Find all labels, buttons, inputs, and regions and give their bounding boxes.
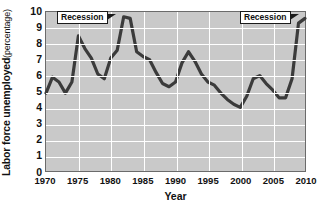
y-axis-tick-label: 7 — [16, 54, 42, 65]
gridline-horizontal — [46, 76, 305, 77]
y-axis-title: Labor force unemployed(percentage) — [0, 9, 14, 176]
data-series-line — [46, 12, 305, 171]
unemployment-line-chart: Labor force unemployed(percentage) 01234… — [0, 0, 318, 219]
gridline-vertical — [242, 12, 243, 171]
y-axis-tick-label: 4 — [16, 102, 42, 113]
plot-area — [45, 11, 306, 172]
gridline-horizontal — [46, 60, 305, 61]
gridline-horizontal — [46, 28, 305, 29]
gridline-vertical — [79, 12, 80, 171]
y-axis-tick-label: 10 — [16, 6, 42, 17]
y-axis-tick-labels: 012345678910 — [14, 0, 42, 180]
x-axis-tick-label: 2010 — [286, 175, 318, 187]
recession-annotation-1975: Recession — [57, 11, 116, 24]
x-axis-title: Year — [45, 190, 306, 202]
gridline-horizontal — [46, 93, 305, 94]
gridline-vertical — [144, 12, 145, 171]
y-axis-title-main: Labor force unemployed — [0, 58, 12, 176]
y-axis-tick-label: 9 — [16, 22, 42, 33]
pointer-flag-icon — [107, 14, 116, 20]
y-axis-tick-label: 1 — [16, 150, 42, 161]
gridline-horizontal — [46, 109, 305, 110]
gridline-vertical — [177, 12, 178, 171]
y-axis-tick-label: 5 — [16, 86, 42, 97]
gridline-horizontal — [46, 44, 305, 45]
pointer-flag-icon — [290, 14, 299, 20]
recession-annotation-2008: Recession — [240, 11, 299, 24]
gridline-vertical — [274, 12, 275, 171]
y-axis-tick-label: 3 — [16, 118, 42, 129]
y-axis-tick-label: 2 — [16, 134, 42, 145]
gridline-horizontal — [46, 125, 305, 126]
y-axis-title-units: (percentage) — [2, 9, 12, 58]
gridline-horizontal — [46, 157, 305, 158]
recession-annotation-2008-label: Recession — [240, 11, 291, 24]
y-axis-tick-label: 8 — [16, 38, 42, 49]
x-axis-tick-labels: 197019751980198519901995200020052010 — [45, 175, 306, 189]
gridline-vertical — [111, 12, 112, 171]
recession-annotation-1975-label: Recession — [57, 11, 108, 24]
y-axis-tick-label: 6 — [16, 70, 42, 81]
gridline-vertical — [209, 12, 210, 171]
gridline-horizontal — [46, 141, 305, 142]
